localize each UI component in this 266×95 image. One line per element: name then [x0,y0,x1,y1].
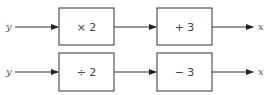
row-2: y ÷ 2 − 3 x [5,53,264,91]
row-1: y × 2 + 3 x [5,8,264,45]
box-2-label: + 3 [175,21,195,34]
row-2-input-label: y [5,66,12,77]
row-1-input-label: y [5,21,12,32]
function-machine-diagram: y × 2 + 3 x y ÷ 2 − 3 x [0,0,266,95]
box-1-label: × 2 [77,21,97,34]
box-4-label: − 3 [175,66,195,79]
box-3-label: ÷ 2 [77,66,97,79]
row-1-output-label: x [258,21,264,32]
row-2-output-label: x [258,66,264,77]
